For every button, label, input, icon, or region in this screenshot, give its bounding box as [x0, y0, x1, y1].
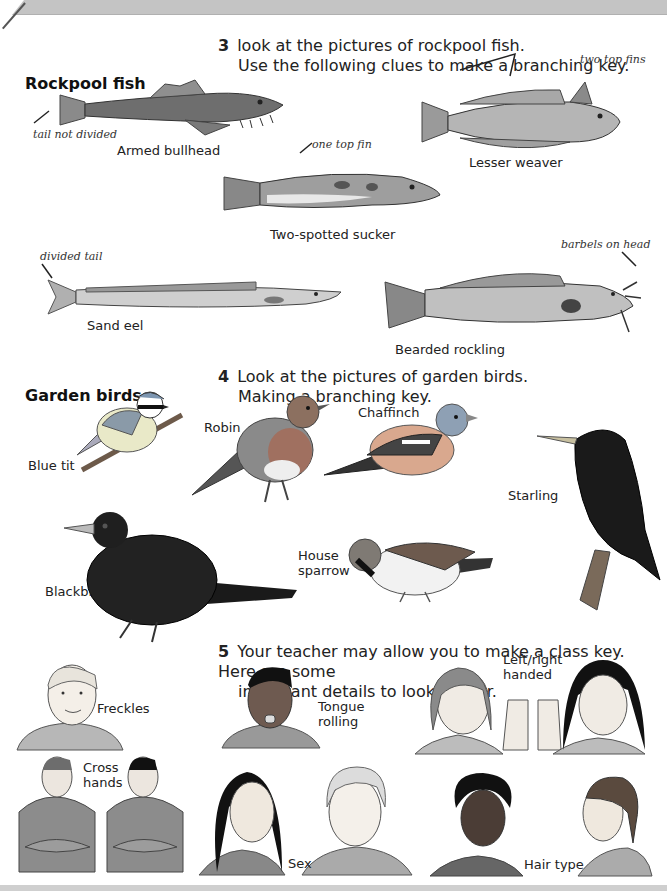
note-pointer: [40, 262, 60, 282]
robin-illustration: [190, 390, 330, 505]
note-pointer: [34, 110, 54, 125]
label-line1: Cross: [83, 760, 122, 775]
label-blue-tit: Blue tit: [28, 458, 75, 473]
note-divided-tail: divided tail: [40, 250, 102, 263]
label-sand-eel: Sand eel: [87, 318, 143, 333]
label-starling: Starling: [508, 488, 558, 503]
question-text-line1: Look at the pictures of garden birds.: [237, 367, 528, 386]
question-3: 3look at the pictures of rockpool fish. …: [218, 36, 629, 76]
label-house-sparrow: House sparrow: [298, 548, 350, 578]
blackbird-illustration: [62, 510, 302, 645]
question-number: 4: [218, 367, 229, 386]
note-tail-not-divided: tail not divided: [33, 128, 117, 141]
label-freckles: Freckles: [97, 701, 150, 716]
house-sparrow-illustration: [345, 530, 495, 600]
label-tongue-rolling: Tongue rolling: [318, 699, 364, 729]
label-chaffinch: Chaffinch: [358, 405, 419, 420]
question-number: 5: [218, 642, 229, 661]
label-hair-type: Hair type: [524, 857, 584, 872]
label-line1: House: [298, 548, 350, 563]
label-line2: hands: [83, 775, 122, 790]
note-one-top-fin: one top fin: [312, 138, 372, 151]
label-armed-bullhead: Armed bullhead: [117, 143, 220, 158]
question-number: 3: [218, 36, 229, 55]
blue-tit-illustration: [72, 385, 187, 475]
label-line1: Left/right: [503, 652, 562, 667]
label-two-spotted-sucker: Two-spotted sucker: [270, 227, 395, 242]
two-spotted-sucker-illustration: [222, 165, 442, 220]
label-blackbird: Blackbird: [45, 584, 105, 599]
question-text-line2: Use the following clues to make a branch…: [218, 56, 629, 76]
note-barbels-on-head: barbels on head: [561, 238, 650, 251]
label-cross-hands: Cross hands: [83, 760, 122, 790]
header-band: [0, 0, 667, 15]
note-pointer: [460, 48, 560, 78]
footer-band: [0, 885, 667, 891]
lesser-weaver-illustration: [420, 80, 620, 155]
tongue-rolling-person-illustration: [220, 660, 320, 750]
label-sex: Sex: [288, 856, 312, 871]
label-line2: sparrow: [298, 563, 350, 578]
starling-illustration: [535, 420, 660, 615]
label-line2: rolling: [318, 714, 364, 729]
label-line1: Tongue: [318, 699, 364, 714]
note-two-top-fins: two top fins: [580, 53, 646, 66]
label-lesser-weaver: Lesser weaver: [469, 155, 563, 170]
label-robin: Robin: [204, 420, 241, 435]
note-pointer: [620, 250, 642, 270]
sand-eel-illustration: [46, 278, 346, 318]
label-line2: handed: [503, 667, 562, 682]
bearded-rockling-illustration: [385, 260, 645, 340]
label-bearded-rockling: Bearded rockling: [395, 342, 505, 357]
label-left-right-handed: Left/right handed: [503, 652, 562, 682]
